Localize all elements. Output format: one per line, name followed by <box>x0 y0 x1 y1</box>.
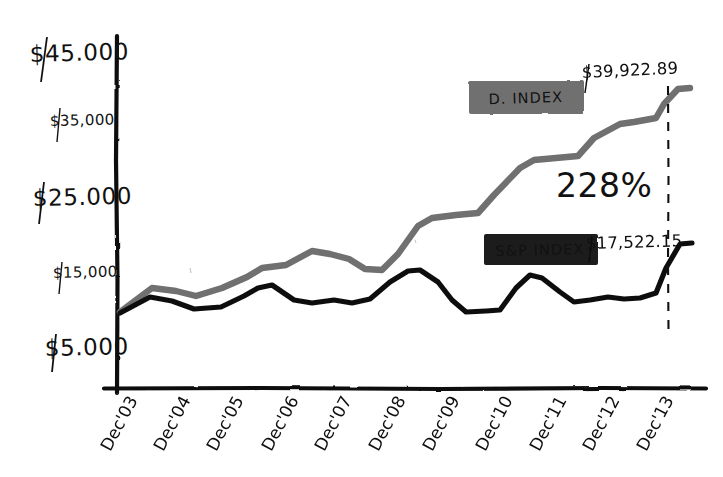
series-badge-label-dow: D. INDEX <box>488 89 563 107</box>
y-tick-45000: $45.000 <box>29 37 129 82</box>
x-tick-label: Dec'05 <box>202 392 247 454</box>
x-axis-labels: Dec'03 Dec'04 Dec'05 Dec'06 Dec'07 Dec'0… <box>96 392 677 454</box>
x-tick-label: Dec'11 <box>525 392 570 454</box>
x-axis-line <box>104 388 706 389</box>
stray-mark <box>190 268 191 273</box>
value-callout-sp: $17,522.15 <box>586 231 683 263</box>
y-tick-label: $25.000 <box>32 183 132 211</box>
series-badge-label-sp: S&P INDEX <box>495 241 584 259</box>
x-tick-label: Dec'07 <box>310 392 355 454</box>
x-tick-label: Dec'12 <box>578 392 623 454</box>
growth-percent-annotation: 228% <box>556 166 652 205</box>
dow-end-value-label: $39,922.89 <box>581 59 678 82</box>
x-tick-label: Dec'04 <box>149 392 194 454</box>
value-callout-dow: $39,922.89 <box>581 59 678 93</box>
sp-end-value-label: $17,522.15 <box>586 231 683 253</box>
x-tick-label: Dec'03 <box>96 392 141 454</box>
y-tick-label: $15,000 <box>53 263 118 282</box>
y-tick-15000: $15,000 <box>53 262 118 294</box>
series-line-sp-index <box>120 243 692 313</box>
x-tick-label: Dec'08 <box>364 392 409 454</box>
y-tick-35000: $35,000 <box>50 108 115 142</box>
x-tick-label: Dec'06 <box>257 392 302 454</box>
stray-mark <box>415 240 416 243</box>
comparison-dashed-line <box>668 86 669 330</box>
hand-drawn-index-chart: $45.000 $35,000 $25.000 $15,000 $5.000 <box>0 0 723 477</box>
chart-canvas: $45.000 $35,000 $25.000 $15,000 $5.000 <box>0 0 723 477</box>
x-tick-label: Dec'10 <box>471 392 516 454</box>
y-tick-label: $5.000 <box>45 333 130 361</box>
axes-group <box>104 36 706 393</box>
dashed-connector <box>668 86 669 330</box>
x-tick-label: Dec'13 <box>632 392 677 454</box>
x-tick-label: Dec'09 <box>418 392 463 454</box>
